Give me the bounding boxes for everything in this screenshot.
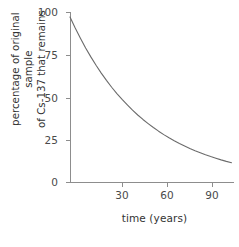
decay-curve-path [70,17,232,163]
x-tick-mark-30 [122,183,123,187]
decay-curve-svg [70,12,235,182]
x-axis-title: time (years) [0,212,239,224]
x-tick-label-60: 60 [147,190,187,201]
x-tick-mark-60 [167,183,168,187]
y-tick-mark-0 [66,182,70,183]
x-axis-line [70,182,234,183]
x-tick-label-30: 30 [102,190,142,201]
y-tick-label-0: 0 [18,177,58,188]
y-axis-title-line-1: percentage of original sample [10,0,36,144]
plot-area [70,12,235,182]
y-axis-title-line-2: of Cs-137 that remains [35,0,48,144]
x-tick-label-90: 90 [192,190,232,201]
chart-figure: 100 75 50 25 0 30 60 90 time (years) per… [0,0,239,247]
x-tick-mark-90 [212,183,213,187]
y-axis-title: percentage of original sample of Cs-137 … [10,0,48,144]
